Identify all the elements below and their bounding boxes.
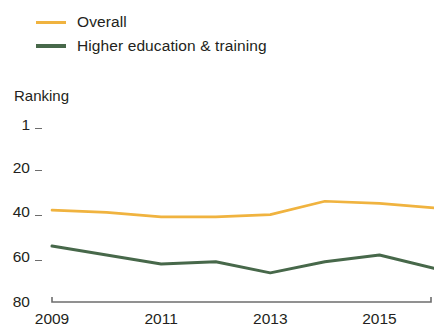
series-line-overall xyxy=(52,201,434,217)
x-axis-line xyxy=(52,297,431,302)
plot-area xyxy=(0,0,434,336)
series-line-higher-education xyxy=(52,246,434,273)
ranking-line-chart: Overall Higher education & training Rank… xyxy=(0,0,434,336)
